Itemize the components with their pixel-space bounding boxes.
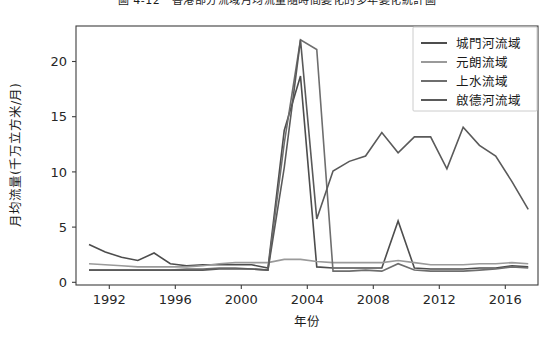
legend-label-1: 元朗流域 [456,55,508,70]
y-tick-label: 5 [59,220,67,235]
chart-legend[interactable]: 城門河流域元朗流域上水流域啟德河流域 [413,27,537,111]
x-tick-label: 2016 [489,292,522,307]
x-tick-label: 2008 [357,292,390,307]
x-tick-label: 2004 [291,292,324,307]
y-axis-title: 月均流量(千万立方米/月) [8,83,23,227]
y-tick-labels: 0 5 10 15 20 [50,54,67,290]
line-chart: 0 5 10 15 20 1992 1996 2000 2004 2008 20… [0,0,554,345]
legend-label-0: 城門河流域 [456,36,521,51]
x-tick-label: 1996 [159,292,192,307]
y-tick-label: 10 [50,165,67,180]
x-axis-title: 年份 [294,314,320,329]
legend-label-2: 上水流域 [456,74,508,89]
y-tickmarks [72,62,76,283]
x-tick-label: 2000 [225,292,258,307]
x-tick-labels: 1992 1996 2000 2004 2008 2012 2016 [93,292,522,307]
x-tick-label: 2012 [423,292,456,307]
y-tick-label: 20 [50,54,67,69]
y-tick-label: 15 [50,109,67,124]
legend-label-3: 啟德河流域 [456,93,521,108]
x-tickmarks [109,285,505,289]
y-tick-label: 0 [59,275,67,290]
figure-container: 圖 4-12 香港部分流域月均流量隨時間變化的多年變化統計圖 0 5 10 15… [0,0,554,345]
x-tick-label: 1992 [93,292,126,307]
